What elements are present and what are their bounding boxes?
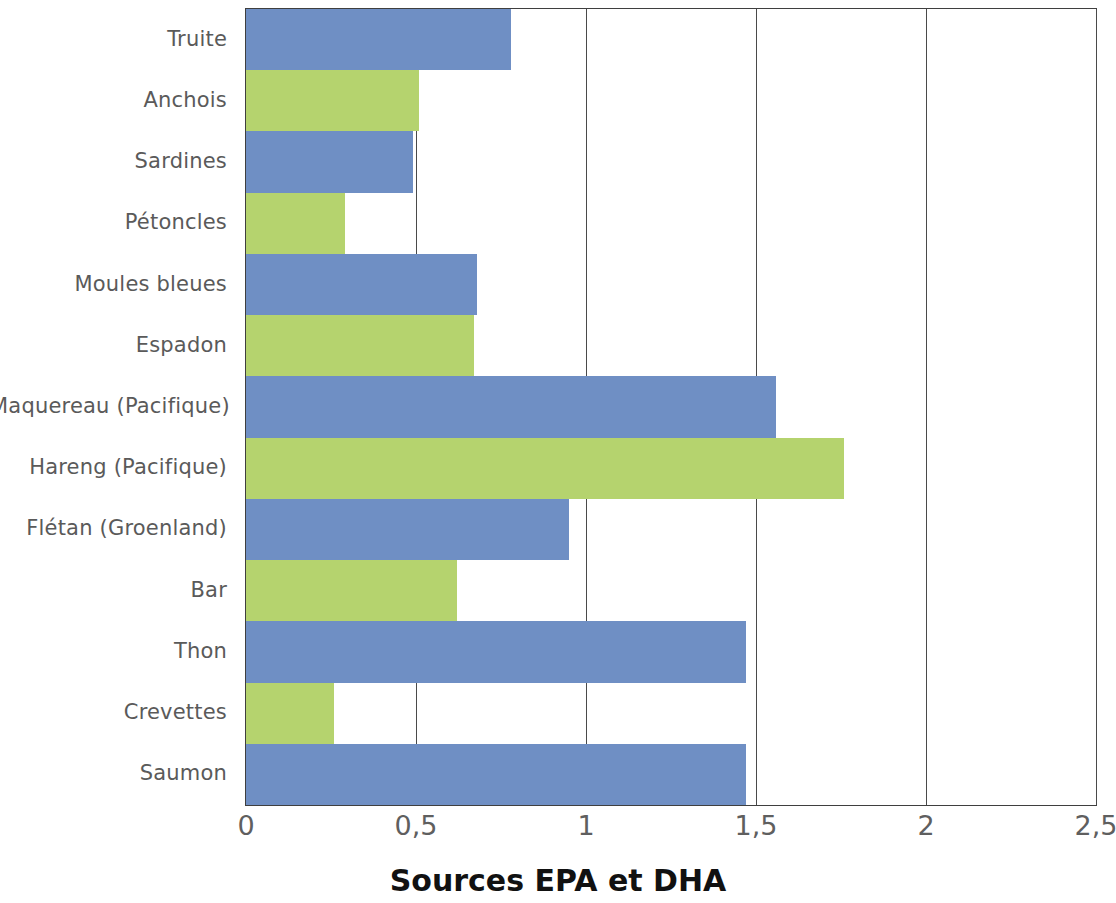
- bar-row: [246, 70, 1096, 131]
- bar: [246, 9, 511, 70]
- bar-row: [246, 438, 1096, 499]
- category-axis-labels: TruiteAnchoisSardinesPétonclesMoules ble…: [0, 9, 237, 805]
- bar: [246, 315, 474, 376]
- bar: [246, 254, 477, 315]
- category-label: Crevettes: [0, 702, 237, 723]
- x-tick-label: 0: [237, 812, 254, 839]
- category-label: Espadon: [0, 335, 237, 356]
- x-tick-label: 2,5: [1075, 812, 1116, 839]
- bar-row: [246, 9, 1096, 70]
- bar-row: [246, 744, 1096, 805]
- category-label: Maquereau (Pacifique): [0, 396, 237, 417]
- bar-row: [246, 193, 1096, 254]
- x-tick-label: 1: [577, 812, 594, 839]
- chart-page: TruiteAnchoisSardinesPétonclesMoules ble…: [0, 0, 1116, 903]
- bar-row: [246, 560, 1096, 621]
- category-label: Saumon: [0, 763, 237, 784]
- category-label: Thon: [0, 641, 237, 662]
- bar-row: [246, 621, 1096, 682]
- x-axis-line: [245, 805, 1097, 806]
- bar-row: [246, 376, 1096, 437]
- bar: [246, 193, 345, 254]
- bar-row: [246, 131, 1096, 192]
- bar-row: [246, 315, 1096, 376]
- category-label: Moules bleues: [0, 274, 237, 295]
- x-tick-label: 1,5: [735, 812, 778, 839]
- bar: [246, 70, 419, 131]
- bar-row: [246, 499, 1096, 560]
- category-label: Bar: [0, 580, 237, 601]
- bar: [246, 376, 776, 437]
- chart-caption: Sources EPA et DHA: [0, 866, 1116, 903]
- bar-row: [246, 683, 1096, 744]
- bar: [246, 683, 334, 744]
- category-label: Pétoncles: [0, 212, 237, 233]
- plot-area: [246, 9, 1096, 805]
- bar: [246, 499, 569, 560]
- bar: [246, 438, 844, 499]
- category-label: Hareng (Pacifique): [0, 457, 237, 478]
- x-axis-tick-labels: 00,511,522,5: [0, 812, 1116, 852]
- bar: [246, 744, 746, 805]
- category-label: Sardines: [0, 151, 237, 172]
- x-tick-label: 2: [917, 812, 934, 839]
- gridline-2,5: [1096, 9, 1097, 805]
- chart-caption-text: Sources EPA et DHA: [390, 866, 727, 896]
- bars-layer: [246, 9, 1096, 805]
- category-label: Anchois: [0, 90, 237, 111]
- bar: [246, 621, 746, 682]
- category-label: Flétan (Groenland): [0, 518, 237, 539]
- bar-row: [246, 254, 1096, 315]
- x-tick-label: 0,5: [395, 812, 438, 839]
- category-label: Truite: [0, 29, 237, 50]
- bar: [246, 560, 457, 621]
- bar: [246, 131, 413, 192]
